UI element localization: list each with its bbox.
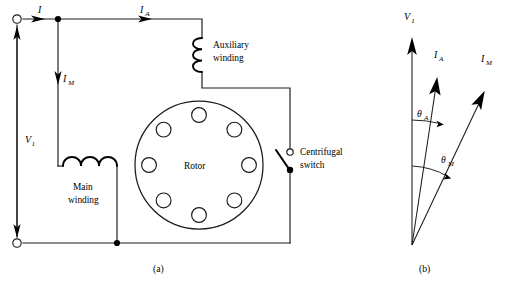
circuit-diagram [13,15,293,247]
label-phasor-ia: I A [433,49,444,63]
rotor-bore-w [142,158,157,173]
label-phasor-v1-sub: 1 [411,17,415,25]
wire-aux-to-right-rail [202,72,290,149]
label-theta-a-sub: A [423,114,429,122]
label-supply-voltage-sub: 1 [32,140,36,148]
label-phasor-ia-sub: A [438,55,444,63]
label-theta-a-text: θ [417,108,422,119]
junction-node-bottom [114,240,120,246]
label-main-current: I M [62,73,75,87]
label-phasor-im-sub: M [485,59,493,67]
label-main-current-text: I [62,73,67,84]
centrifugal-switch[interactable] [276,149,293,173]
label-aux-current: I A [139,4,150,18]
rotor-bore-sw [156,193,171,208]
label-aux-current-sub: A [144,10,150,18]
label-auxiliary-winding-line1: Auxiliary [213,40,249,50]
rotor-bore-se [227,193,242,208]
terminal-bottom [13,239,21,247]
main-coil-turns [63,157,117,166]
caption-b: (b) [419,263,430,275]
label-line-current-text: I [37,4,42,15]
rotor-bore-e [242,158,257,173]
label-phasor-v1: V 1 [404,11,415,25]
label-aux-current-text: I [139,4,144,15]
figure-canvas: I I A I M V 1 Auxiliary winding Main win… [0,0,507,285]
label-auxiliary-winding: Auxiliary winding [213,40,249,63]
phasor-ia [412,77,441,245]
theta-a-arc-head [436,120,444,127]
theta-m-arc [412,166,448,177]
label-rotor: Rotor [184,161,206,171]
label-theta-m-sub: M [447,160,455,168]
angle-arc-theta-m [412,166,451,180]
label-phasor-ia-text: I [433,49,438,60]
label-supply-voltage: V 1 [25,134,35,148]
aux-coil-turns [193,38,202,72]
label-switch-line1: Centrifugal [300,147,343,157]
rotor-bore-nw [156,122,171,137]
label-centrifugal-switch: Centrifugal switch [300,147,343,170]
label-theta-m: θ M [441,154,455,168]
phasor-diagram [407,37,485,245]
auxiliary-winding-coil [193,38,202,72]
label-main-current-sub: M [67,79,75,87]
label-main-winding: Main winding [68,182,99,205]
main-winding-coil [63,157,117,166]
switch-upper-contact [287,149,293,155]
supply-voltage-arrow [13,26,20,238]
rotor-bore-ne [227,122,242,137]
rotor-bore-s [192,208,207,223]
terminal-top [13,15,21,23]
label-phasor-im: I M [480,53,493,67]
rotor-bore-n [192,108,207,123]
wire-top [23,19,202,38]
caption-a: (a) [153,263,164,275]
label-theta-m-text: θ [441,154,446,165]
label-switch-line2: switch [300,160,325,170]
label-auxiliary-winding-line2: winding [213,53,244,63]
label-main-winding-line1: Main [73,182,93,192]
label-line-current: I [37,4,42,15]
figure-root: I I A I M V 1 Auxiliary winding Main win… [0,0,507,285]
label-phasor-im-text: I [480,53,485,64]
label-main-winding-line2: winding [68,195,99,205]
junction-node-top [55,16,61,22]
im-phasor-head [471,91,484,110]
phasor-v1 [407,37,417,245]
